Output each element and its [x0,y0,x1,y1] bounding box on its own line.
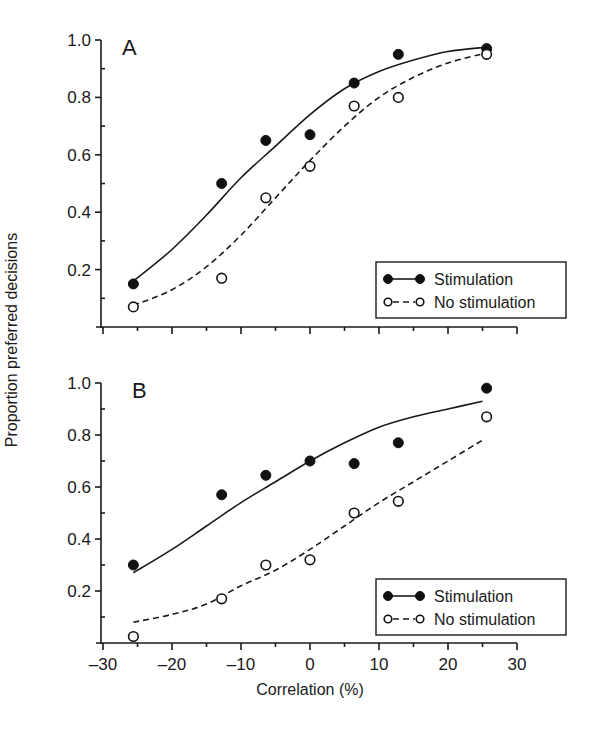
no-stimulation-data-point [305,161,315,171]
x-tick-label: 30 [508,655,527,674]
y-tick-label: 0.6 [67,146,91,165]
legend-filled-marker-icon [416,592,425,601]
panel-b: 0.20.40.60.81.0–30–20–100102030BStimulat… [67,374,566,674]
legend-label-no-stimulation: No stimulation [434,611,535,628]
no-stimulation-data-point [305,555,315,565]
x-tick-label: –10 [227,655,255,674]
legend-label-no-stimulation: No stimulation [434,294,535,311]
y-tick-label: 0.6 [67,478,91,497]
no-stimulation-data-point [261,193,271,203]
no-stimulation-data-point [129,632,139,642]
legend-open-marker-icon [384,298,392,306]
no-stimulation-data-point [129,302,139,312]
y-tick-label: 0.8 [67,426,91,445]
no-stimulation-data-point [217,273,227,283]
x-axis-title: Correlation (%) [256,681,364,698]
legend-label-stimulation: Stimulation [434,588,513,605]
y-tick-label: 0.2 [67,582,91,601]
no-stimulation-data-point [482,412,492,422]
no-stimulation-data-point [482,50,492,60]
stimulation-data-point [305,456,315,466]
stimulation-data-point [128,279,138,289]
y-tick-label: 0.4 [67,530,91,549]
legend-filled-marker-icon [384,592,393,601]
panel-label: A [122,35,137,60]
legend-open-marker-icon [416,615,424,623]
stimulation-data-point [482,383,492,393]
stimulation-data-point [128,560,138,570]
no-stimulation-data-point [349,508,359,518]
y-axis-title: Proportion preferred decisions [3,233,20,447]
stimulation-data-point [349,78,359,88]
no-stimulation-data-point [261,560,271,570]
legend: StimulationNo stimulation [376,262,566,318]
stimulation-data-point [261,470,271,480]
legend-label-stimulation: Stimulation [434,271,513,288]
no-stimulation-data-point [217,594,227,604]
no-stimulation-data-point [349,101,359,111]
y-tick-label: 1.0 [67,31,91,50]
stimulation-fit-curve [133,401,482,573]
stimulation-data-point [349,459,359,469]
panel-a: 0.20.40.60.81.0AStimulationNo stimulatio… [67,31,566,334]
stimulation-data-point [305,130,315,140]
stimulation-data-point [217,179,227,189]
psychometric-figure: Proportion preferred decisions Correlati… [0,0,599,733]
y-tick-label: 0.4 [67,203,91,222]
stimulation-data-point [393,49,403,59]
legend-filled-marker-icon [384,275,393,284]
y-tick-label: 0.2 [67,261,91,280]
stimulation-data-point [393,438,403,448]
no-stimulation-data-point [394,497,404,507]
y-tick-label: 0.8 [67,88,91,107]
x-tick-label: 0 [305,655,314,674]
stimulation-data-point [217,490,227,500]
y-tick-label: 1.0 [67,374,91,393]
no-stimulation-data-point [394,93,404,103]
legend: StimulationNo stimulation [376,579,566,635]
legend-open-marker-icon [384,615,392,623]
stimulation-data-point [261,135,271,145]
legend-open-marker-icon [416,298,424,306]
x-tick-label: –30 [89,655,117,674]
x-tick-label: –20 [158,655,186,674]
x-tick-label: 20 [439,655,458,674]
panel-label: B [132,378,147,403]
legend-filled-marker-icon [416,275,425,284]
x-tick-label: 10 [370,655,389,674]
